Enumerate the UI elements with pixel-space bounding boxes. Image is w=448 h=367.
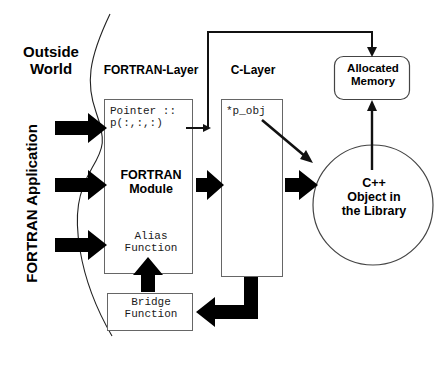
cpp-object-label: C++ Object in the Library xyxy=(330,176,418,218)
diagram-canvas: Outside World FORTRAN Application FORTRA… xyxy=(0,0,448,367)
allocated-memory-label: Allocated Memory xyxy=(337,62,409,88)
fortran-layer-label: FORTRAN-Layer xyxy=(98,64,204,77)
alias-function-label: Alias Function xyxy=(107,230,195,255)
p-obj-label: *p_obj xyxy=(226,105,286,117)
cpp-to-allocated-arrowhead xyxy=(367,100,377,111)
fortran-module-label: FORTRAN Module xyxy=(110,168,192,196)
fortran-application-label: FORTRAN Application xyxy=(24,108,41,298)
input-arrow-2 xyxy=(55,170,107,200)
c-layer-label: C-Layer xyxy=(215,64,291,77)
bridge-function-label: Bridge Function xyxy=(110,296,192,321)
pointer-declaration-label: Pointer :: p(:,:,:) xyxy=(110,105,194,130)
clayer-to-cpp-arrow xyxy=(285,170,318,200)
c-layer-box xyxy=(222,100,283,277)
outside-world-label: Outside World xyxy=(8,44,94,78)
module-to-clayer-arrow xyxy=(196,170,224,200)
clayer-to-bridge-arrow xyxy=(196,277,258,327)
allocated-memory-in-arrowhead xyxy=(367,47,377,57)
input-arrow-1 xyxy=(55,113,107,143)
